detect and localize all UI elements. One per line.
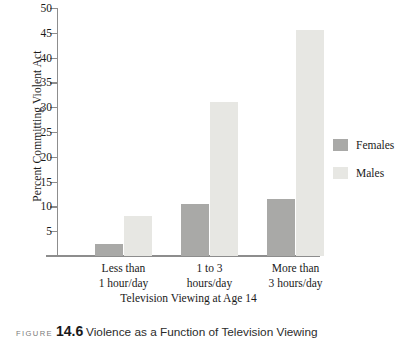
y-axis-tick-label: 35 bbox=[41, 76, 53, 88]
legend-swatch-icon bbox=[333, 139, 348, 151]
legend-item-females: Females bbox=[333, 131, 394, 159]
y-axis-tick-label: 30 bbox=[41, 101, 53, 113]
x-axis-category-label: More than3 hours/day bbox=[241, 261, 351, 290]
bar-males-2 bbox=[296, 30, 324, 256]
chart-legend: FemalesMales bbox=[333, 131, 394, 187]
x-axis-category-label-line: 3 hours/day bbox=[241, 276, 351, 291]
y-axis-tick-label: 45 bbox=[41, 27, 53, 39]
figure-container: Percent Committing Violent Act 510152025… bbox=[0, 0, 420, 340]
legend-swatch-icon bbox=[333, 167, 348, 179]
caption-number: 14.6 bbox=[56, 323, 83, 339]
y-axis-tick-label: 20 bbox=[41, 151, 53, 163]
bar-females-2 bbox=[267, 199, 295, 256]
plot-area: 5101520253035404550 Less than1 hour/day1… bbox=[57, 8, 320, 256]
legend-label: Females bbox=[356, 139, 394, 151]
bar-males-1 bbox=[210, 102, 238, 256]
caption-label: FIGURE bbox=[16, 329, 53, 338]
bar-males-0 bbox=[124, 216, 152, 256]
y-axis-tick-label: 25 bbox=[41, 126, 53, 138]
bar-females-0 bbox=[95, 244, 123, 256]
y-axis-line bbox=[57, 8, 58, 256]
bar-females-1 bbox=[181, 204, 209, 256]
x-axis-title: Television Viewing at Age 14 bbox=[57, 292, 320, 304]
legend-label: Males bbox=[356, 167, 384, 179]
y-axis-tick-label: 40 bbox=[41, 52, 53, 64]
y-axis-tick-label: 10 bbox=[41, 200, 53, 212]
y-axis-tick-label: 5 bbox=[46, 225, 52, 237]
caption-text: Violence as a Function of Television Vie… bbox=[86, 325, 318, 339]
legend-item-males: Males bbox=[333, 159, 394, 187]
figure-caption: FIGURE 14.6 Violence as a Function of Te… bbox=[16, 324, 420, 340]
x-axis-category-label-line: More than bbox=[241, 261, 351, 276]
y-axis-tick-label: 50 bbox=[41, 2, 53, 14]
y-axis-tick-label: 15 bbox=[41, 176, 53, 188]
